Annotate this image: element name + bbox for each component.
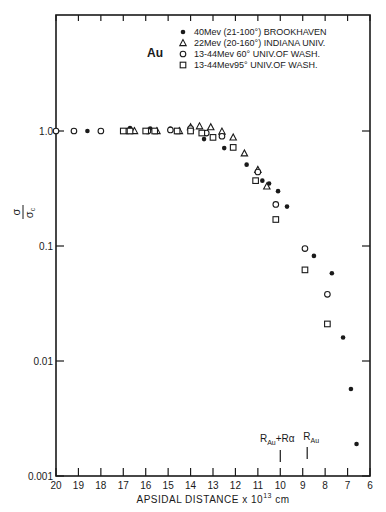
legend-entry: 40Mev (21-100°) BROOKHAVEN: [194, 27, 326, 37]
legend: 40Mev (21-100°) BROOKHAVEN22Mev (20-160°…: [180, 27, 327, 70]
series-open-circle: [53, 126, 330, 297]
y-axis: 1.00.10.010.001: [28, 126, 370, 482]
y-tick-label: 1.0: [39, 126, 53, 137]
svg-text:σc: σc: [23, 207, 36, 218]
x-tick-label: 15: [163, 480, 175, 491]
y-tick-label: 0.001: [28, 471, 53, 482]
x-tick-label: 16: [140, 480, 152, 491]
scatter-chart: 20191817161514131211109876APSIDAL DISTAN…: [0, 0, 386, 512]
annotation-rau-plus-ralpha: RAu+Rα: [260, 433, 295, 446]
x-tick-label: 12: [230, 480, 242, 491]
x-tick-label: 10: [275, 480, 287, 491]
x-tick-label: 7: [345, 480, 351, 491]
legend-entry: 13-44Mev 60° UNIV.OF WASH.: [194, 49, 320, 59]
x-tick-label: 19: [73, 480, 85, 491]
x-tick-label: 11: [253, 480, 264, 491]
svg-text:σ: σ: [10, 208, 22, 215]
y-axis-label: σσc: [10, 205, 36, 219]
plot-frame: [56, 15, 370, 476]
y-tick-label: 0.01: [34, 356, 54, 367]
x-tick-label: 13: [207, 480, 219, 491]
y-tick-label: 0.1: [39, 241, 53, 252]
x-tick-label: 14: [185, 480, 197, 491]
x-axis-label: APSIDAL DISTANCE x 1013 cm: [136, 492, 289, 505]
x-tick-label: 18: [95, 480, 107, 491]
series-open-square: [120, 128, 330, 327]
x-tick-label: 17: [118, 480, 130, 491]
legend-entry: 22Mev (20-160°) INDIANA UNIV.: [194, 38, 325, 48]
chart-title: Au: [147, 46, 163, 60]
x-tick-label: 9: [300, 480, 306, 491]
x-tick-label: 6: [367, 480, 373, 491]
x-tick-label: 8: [322, 480, 328, 491]
annotation-rau: RAu: [303, 431, 319, 444]
legend-entry: 13-44Mev95° UNIV.OF WASH.: [194, 60, 317, 70]
annotations: RAu+RαRAu: [260, 431, 319, 462]
x-axis: 20191817161514131211109876: [50, 15, 373, 491]
series-filled-circle: [85, 126, 359, 446]
